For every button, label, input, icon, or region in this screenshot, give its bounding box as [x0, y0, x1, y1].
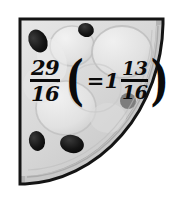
pizza-quarter-illustration: [0, 0, 184, 201]
pizza-inner-group: [20, 19, 163, 184]
pizza-slice-body: [20, 19, 163, 184]
pizza-fraction-figure: 29 16 ( = 1 13 16 ) A quarter of a pizza…: [0, 0, 184, 201]
